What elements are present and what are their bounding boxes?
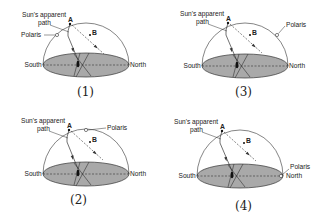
arrow-icon — [224, 157, 227, 162]
point-a-label: A — [68, 16, 73, 23]
point-b-label: B — [246, 137, 251, 144]
point-b-label: B — [92, 29, 97, 36]
point-b-marker — [89, 34, 91, 36]
south-label: South — [184, 62, 202, 69]
polaris-star-icon — [84, 128, 87, 131]
north-label: North — [130, 61, 146, 68]
panel-caption: (1) — [77, 85, 94, 99]
polaris-star-icon — [279, 174, 282, 177]
point-b-label: B — [252, 29, 257, 36]
north-label: North — [289, 62, 305, 69]
sun-path-b — [72, 25, 104, 54]
arrow-icon — [230, 48, 233, 53]
observer-icon — [77, 170, 80, 176]
north-label: North — [130, 170, 146, 177]
south-label: South — [25, 170, 43, 177]
point-a-marker — [68, 129, 70, 131]
polaris-label: Polaris — [21, 31, 42, 38]
south-label: South — [179, 172, 197, 179]
polaris-star-icon — [55, 33, 58, 36]
point-a-marker — [221, 130, 223, 132]
panel-3: ABSun's apparentpathPolarisSouthNorth(3) — [180, 10, 307, 99]
observer-icon — [77, 61, 80, 67]
sun-path-b — [71, 131, 103, 160]
south-label: South — [25, 61, 43, 68]
point-b-marker — [243, 142, 245, 144]
arrow-icon — [246, 152, 250, 156]
sun-path-b — [224, 132, 256, 161]
sun-path-b — [230, 24, 262, 53]
arrow-icon — [93, 151, 97, 155]
leader-line — [202, 132, 221, 139]
point-b-marker — [89, 141, 91, 143]
leader-line — [50, 25, 69, 32]
polaris-label: Polaris — [286, 21, 307, 28]
polaris-star-icon — [275, 33, 278, 36]
sun-path-label: path — [190, 126, 203, 134]
observer-icon — [231, 172, 234, 178]
panel-caption: (2) — [70, 193, 87, 207]
point-a-marker — [69, 23, 71, 25]
point-a-label: A — [226, 15, 231, 22]
panel-caption: (4) — [235, 199, 252, 213]
observer-icon — [236, 62, 239, 68]
point-a-label: A — [220, 123, 225, 130]
point-b-marker — [249, 34, 251, 36]
arrow-icon — [71, 48, 74, 53]
sun-path-label: path — [196, 18, 209, 26]
panel-caption: (3) — [235, 85, 252, 99]
sun-path-label: path — [37, 125, 50, 133]
polaris-label: Polaris — [107, 124, 128, 131]
point-b-label: B — [92, 136, 97, 143]
panel-1: ABSun's apparentpathPolarisSouthNorth(1) — [21, 11, 146, 99]
leader-line — [279, 26, 286, 34]
north-label: North — [286, 172, 302, 179]
celestial-sphere-diagram: ABSun's apparentpathPolarisSouthNorth(1)… — [0, 0, 327, 214]
leader-line — [208, 24, 227, 31]
polaris-label: Polaris — [290, 163, 311, 170]
point-a-marker — [227, 22, 229, 24]
point-a-label: A — [67, 122, 72, 129]
sun-path-label: path — [38, 19, 51, 27]
arrow-icon — [94, 45, 98, 49]
panel-4: ABSun's apparentpathPolarisSouthNorth(4) — [174, 118, 311, 213]
panel-2: ABSun's apparentpathPolarisSouthNorth(2) — [21, 117, 146, 207]
arrow-icon — [71, 155, 74, 160]
arrow-icon — [252, 44, 256, 48]
